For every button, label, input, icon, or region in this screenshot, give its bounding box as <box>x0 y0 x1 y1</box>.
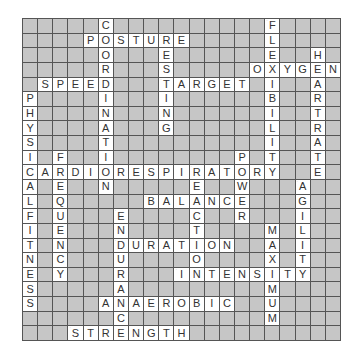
letter-cell[interactable]: ·H <box>311 48 325 62</box>
letter-cell[interactable]: I <box>23 151 37 165</box>
letter-cell[interactable]: L <box>23 195 37 209</box>
letter-cell[interactable]: T <box>265 151 279 165</box>
letter-cell[interactable]: ·T <box>159 78 173 92</box>
letter-cell[interactable]: C <box>220 297 234 311</box>
letter-cell[interactable]: Q <box>53 195 67 209</box>
letter-cell[interactable]: A <box>99 121 113 135</box>
letter-cell[interactable]: E <box>265 48 279 62</box>
letter-cell[interactable]: N <box>129 326 143 340</box>
letter-cell[interactable]: R <box>250 165 264 179</box>
letter-cell[interactable]: N <box>23 253 37 267</box>
letter-cell[interactable]: D <box>68 165 82 179</box>
letter-cell[interactable]: A <box>265 239 279 253</box>
letter-cell[interactable]: R <box>144 239 158 253</box>
letter-cell[interactable]: I <box>99 92 113 106</box>
letter-cell[interactable]: E <box>129 165 143 179</box>
letter-cell[interactable]: T <box>159 326 173 340</box>
letter-cell[interactable]: Y <box>296 268 310 282</box>
letter-cell[interactable]: A <box>114 282 128 296</box>
letter-cell[interactable]: E <box>220 268 234 282</box>
letter-cell[interactable]: ·F <box>265 19 279 33</box>
letter-cell[interactable]: Y <box>280 63 294 77</box>
letter-cell[interactable]: T <box>311 107 325 121</box>
letter-cell[interactable]: U <box>53 209 67 223</box>
letter-cell[interactable]: N <box>53 239 67 253</box>
letter-cell[interactable]: R <box>114 165 128 179</box>
letter-cell[interactable]: N <box>99 107 113 121</box>
letter-cell[interactable]: E <box>53 224 67 238</box>
letter-cell[interactable]: E <box>23 268 37 282</box>
letter-cell[interactable]: S <box>250 268 264 282</box>
letter-cell[interactable]: C <box>114 312 128 326</box>
letter-cell[interactable]: A <box>23 180 37 194</box>
letter-cell[interactable]: ·C <box>23 165 37 179</box>
letter-cell[interactable]: O <box>174 297 188 311</box>
letter-cell[interactable]: A <box>311 136 325 150</box>
letter-cell[interactable]: A <box>38 165 52 179</box>
letter-cell[interactable]: D <box>99 78 113 92</box>
letter-cell[interactable]: N <box>190 268 204 282</box>
letter-cell[interactable]: N <box>114 297 128 311</box>
letter-cell[interactable]: G <box>296 195 310 209</box>
letter-cell[interactable]: O <box>190 253 204 267</box>
letter-cell[interactable]: I <box>265 107 279 121</box>
letter-cell[interactable]: N <box>205 195 219 209</box>
letter-cell[interactable]: I <box>190 239 204 253</box>
letter-cell[interactable]: X <box>265 253 279 267</box>
letter-cell[interactable]: E <box>114 326 128 340</box>
letter-cell[interactable]: U <box>265 297 279 311</box>
letter-cell[interactable]: R <box>53 165 67 179</box>
letter-cell[interactable]: N <box>220 239 234 253</box>
letter-cell[interactable]: M <box>265 312 279 326</box>
letter-cell[interactable]: I <box>296 239 310 253</box>
letter-cell[interactable]: S <box>159 63 173 77</box>
letter-cell[interactable]: I <box>23 224 37 238</box>
letter-cell[interactable]: I <box>205 297 219 311</box>
letter-cell[interactable]: ·O <box>250 63 264 77</box>
letter-cell[interactable]: A <box>174 78 188 92</box>
letter-cell[interactable]: E <box>190 180 204 194</box>
letter-cell[interactable]: ·A <box>99 297 113 311</box>
letter-cell[interactable]: T <box>99 136 113 150</box>
letter-cell[interactable]: T <box>296 253 310 267</box>
letter-cell[interactable]: O <box>99 34 113 48</box>
letter-cell[interactable]: Y <box>53 268 67 282</box>
letter-cell[interactable]: E <box>174 34 188 48</box>
letter-cell[interactable]: ·B <box>144 195 158 209</box>
letter-cell[interactable]: T <box>84 326 98 340</box>
letter-cell[interactable]: O <box>235 165 249 179</box>
letter-cell[interactable]: N <box>99 180 113 194</box>
letter-cell[interactable]: R <box>114 268 128 282</box>
letter-cell[interactable]: A <box>159 239 173 253</box>
letter-cell[interactable]: ·C <box>99 19 113 33</box>
letter-cell[interactable]: Y <box>265 165 279 179</box>
letter-cell[interactable]: E <box>220 78 234 92</box>
letter-cell[interactable]: N <box>235 268 249 282</box>
letter-cell[interactable]: N <box>159 107 173 121</box>
letter-cell[interactable]: I <box>174 165 188 179</box>
letter-cell[interactable]: C <box>190 209 204 223</box>
letter-cell[interactable]: R <box>159 297 173 311</box>
letter-cell[interactable]: P <box>53 78 67 92</box>
letter-cell[interactable]: E <box>159 48 173 62</box>
letter-cell[interactable]: N <box>114 224 128 238</box>
letter-cell[interactable]: ·F <box>53 151 67 165</box>
letter-cell[interactable]: L <box>265 121 279 135</box>
letter-cell[interactable]: G <box>144 326 158 340</box>
letter-cell[interactable]: ·S <box>38 78 52 92</box>
letter-cell[interactable]: G <box>159 121 173 135</box>
letter-cell[interactable]: ·P <box>23 92 37 106</box>
letter-cell[interactable]: T <box>23 239 37 253</box>
letter-cell[interactable]: G <box>205 78 219 92</box>
letter-cell[interactable]: B <box>265 92 279 106</box>
letter-cell[interactable]: ·I <box>174 268 188 282</box>
letter-cell[interactable]: I <box>84 165 98 179</box>
letter-cell[interactable]: I <box>296 209 310 223</box>
letter-cell[interactable]: T <box>235 78 249 92</box>
letter-cell[interactable]: ·S <box>68 326 82 340</box>
letter-cell[interactable]: R <box>99 326 113 340</box>
letter-cell[interactable]: B <box>190 297 204 311</box>
letter-cell[interactable]: O <box>99 48 113 62</box>
letter-cell[interactable]: U <box>129 239 143 253</box>
letter-cell[interactable]: I <box>265 78 279 92</box>
